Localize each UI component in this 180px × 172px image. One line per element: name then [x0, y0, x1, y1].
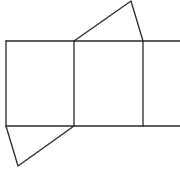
- bottom-triangle: [6, 126, 74, 166]
- top-triangle: [74, 1, 143, 41]
- geometric-net-diagram: [0, 0, 180, 172]
